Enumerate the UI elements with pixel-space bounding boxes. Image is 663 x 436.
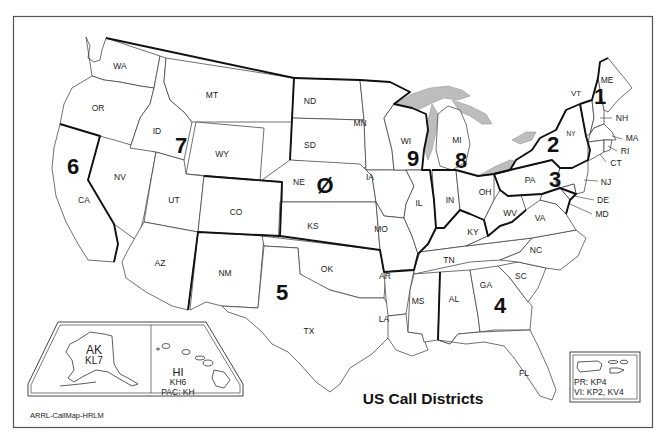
district-label-2: 2 [547,132,559,157]
state-label-MS: MS [412,296,425,306]
district-label-7: 7 [175,133,187,158]
state-MS [408,272,440,342]
state-label-UT: UT [168,195,179,205]
state-label-AZ: AZ [155,258,166,268]
state-label-MD: MD [595,209,608,219]
state-label-NH: NH [616,113,628,123]
state-label-ID: ID [153,126,162,136]
state-label-NV: NV [114,172,126,182]
state-label-MN: MN [353,118,366,128]
state-label-IN: IN [446,195,455,205]
district-label-5: 5 [276,280,288,305]
district-label-8: 8 [455,148,467,173]
district-label-6: 6 [67,154,79,179]
state-label-FL: FL [519,368,529,378]
state-label-GA: GA [480,280,493,290]
map-title: US Call Districts [363,390,484,407]
state-label-SC: SC [515,271,527,281]
state-label-CT: CT [610,158,621,168]
state-label-KY: KY [467,227,479,237]
state-label-DE: DE [597,195,609,205]
hawaii-prefix: KH6 [170,377,187,387]
us-call-districts-map: WA OR CA ID NV MT WY UT AZ CO NM ND SD N… [0,0,663,436]
district-label-4: 4 [494,293,507,318]
state-label-LA: LA [379,314,390,324]
state-label-IL: IL [415,198,422,208]
district-label-9: 9 [407,146,419,171]
state-label-MI: MI [452,135,461,145]
state-label-ND: ND [304,96,316,106]
state-label-NJ: NJ [601,177,611,187]
state-label-AL: AL [449,294,460,304]
alaska-hawaii-inset: AK KL7 HI KH6 PAC: KH [28,322,243,397]
district-label-3: 3 [549,167,561,192]
state-ND [292,78,364,120]
state-label-PA: PA [525,175,536,185]
state-label-WY: WY [215,149,229,159]
state-CO [198,176,282,236]
district-label-0: Ø [316,173,333,198]
state-label-NM: NM [218,268,231,278]
state-label-CA: CA [78,195,90,205]
alaska-prefix: KL7 [85,355,103,366]
caribbean-inset: PR: KP4 VI: KP2, KV4 [570,352,640,402]
state-label-OH: OH [479,187,492,197]
virgin-islands-prefix: VI: KP2, KV4 [574,387,624,397]
state-label-WV: WV [503,208,517,218]
state-label-NY: NY [566,130,576,137]
pacific-prefix: PAC: KH [161,387,194,397]
state-label-MO: MO [374,224,388,234]
state-label-VA: VA [535,213,546,223]
map-credit: ARRL-CallMap-HRLM [30,411,104,420]
state-label-TX: TX [304,326,315,336]
district-label-1: 1 [594,84,606,109]
state-label-MT: MT [206,90,218,100]
state-label-IA: IA [366,172,374,182]
state-label-CO: CO [230,207,243,217]
state-label-NC: NC [530,245,542,255]
state-label-AR: AR [379,271,391,281]
state-label-OR: OR [92,103,105,113]
state-label-SD: SD [304,140,316,150]
state-label-WA: WA [113,61,127,71]
state-label-KS: KS [307,221,319,231]
state-label-NE: NE [293,177,305,187]
state-label-MA: MA [626,133,639,143]
state-label-RI: RI [621,146,630,156]
state-label-OK: OK [321,264,334,274]
state-label-TN: TN [443,255,454,265]
state-label-WI: WI [401,136,411,146]
state-label-VT: VT [571,89,581,98]
puerto-rico-prefix: PR: KP4 [574,377,607,387]
